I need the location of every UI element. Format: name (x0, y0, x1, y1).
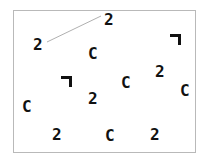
search-item-letter-c: C (22, 99, 32, 115)
search-item-letter-c: C (88, 46, 98, 62)
search-item-digit-two: 2 (52, 127, 62, 143)
search-item-letter-c: C (180, 83, 190, 99)
search-item-letter-c: C (121, 75, 131, 91)
visual-search-stimulus: 22C2CC2C2C2 (0, 0, 209, 164)
search-item-digit-two: 2 (88, 91, 98, 107)
corner-angle-icon (170, 34, 181, 45)
search-item-digit-two: 2 (150, 127, 160, 143)
corner-angle-icon (61, 76, 72, 87)
search-item-digit-two: 2 (104, 12, 114, 28)
search-item-digit-two: 2 (33, 37, 43, 53)
search-item-digit-two: 2 (155, 64, 165, 80)
search-item-letter-c: C (105, 128, 115, 144)
